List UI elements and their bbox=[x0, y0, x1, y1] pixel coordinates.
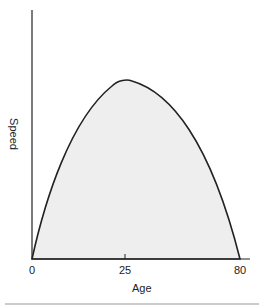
chart-canvas bbox=[0, 0, 264, 308]
y-axis-title: Speed bbox=[8, 118, 20, 150]
x-tick-label-80: 80 bbox=[234, 264, 246, 276]
x-tick-label-0: 0 bbox=[29, 264, 35, 276]
x-axis-title: Age bbox=[132, 282, 152, 294]
x-tick-label-25: 25 bbox=[119, 264, 131, 276]
speed-area bbox=[32, 80, 240, 259]
